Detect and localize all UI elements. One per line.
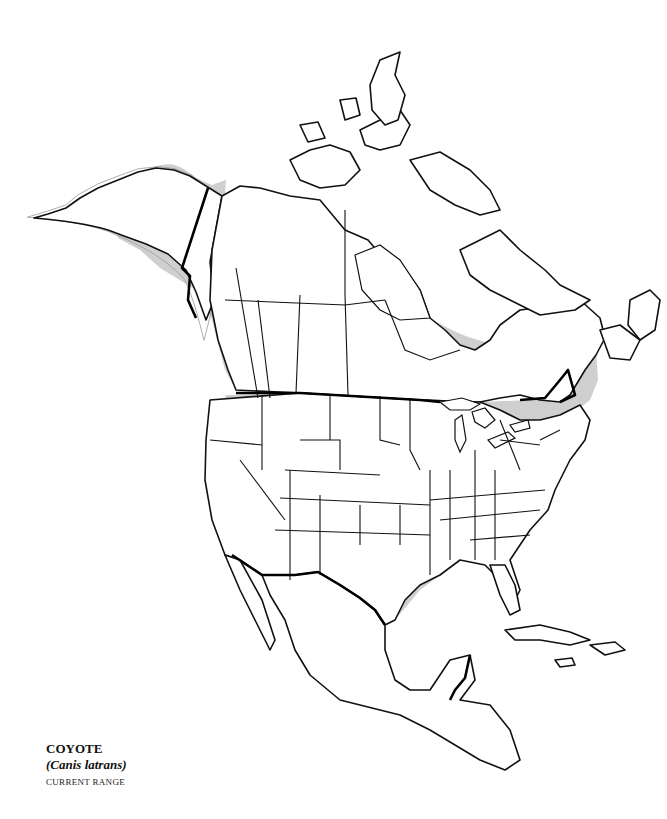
species-common-name: COYOTE bbox=[46, 741, 127, 757]
map-caption: COYOTE (Canis latrans) CURRENT RANGE bbox=[46, 741, 127, 790]
species-scientific-name: (Canis latrans) bbox=[46, 757, 127, 773]
map-subtitle: CURRENT RANGE bbox=[46, 774, 127, 790]
range-map bbox=[0, 0, 667, 819]
